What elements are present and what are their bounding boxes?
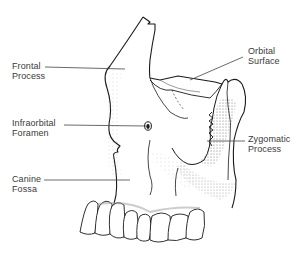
label-frontal-process: Frontal Process (12, 61, 45, 81)
label-canine-fossa-line1: Canine (12, 174, 41, 184)
leader-infraorbital-foramen (64, 125, 146, 126)
label-orbital-surface-line2: Surface (248, 56, 280, 66)
leader-frontal-process (45, 67, 125, 69)
label-zygomatic-process-line1: Zygomatic (248, 134, 290, 144)
label-orbital-surface: Orbital Surface (248, 46, 280, 66)
tooth-premolar-2 (137, 214, 151, 241)
tooth-molar-1 (150, 213, 171, 242)
label-infraorbital-foramen-line1: Infraorbital (12, 118, 56, 128)
label-zygomatic-process-line2: Process (248, 144, 290, 154)
label-infraorbital-foramen: Infraorbital Foramen (12, 118, 56, 138)
label-canine-fossa-line2: Fossa (12, 184, 41, 194)
label-orbital-surface-line1: Orbital (248, 46, 280, 56)
label-canine-fossa: Canine Fossa (12, 174, 41, 194)
maxilla-diagram: Frontal Process Infraorbital Foramen Can… (0, 0, 305, 255)
label-infraorbital-foramen-line2: Foramen (12, 128, 56, 138)
label-frontal-process-line2: Process (12, 71, 45, 81)
tooth-canine (109, 203, 125, 238)
leader-orbital-surface (190, 57, 243, 80)
label-zygomatic-process: Zygomatic Process (248, 134, 290, 154)
infraorbital-foramen-hole (146, 124, 149, 129)
orbital-rim (150, 80, 222, 98)
tooth-molar-3 (186, 209, 205, 240)
infraorbital-margin (150, 78, 188, 118)
canine-eminence-line (148, 140, 152, 195)
tooth-premolar-1 (123, 211, 138, 240)
label-frontal-process-line1: Frontal (12, 61, 45, 71)
